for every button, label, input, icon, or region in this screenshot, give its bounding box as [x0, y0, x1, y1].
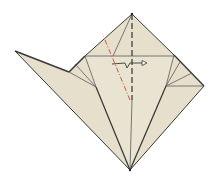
bottom-apex-point: [129, 169, 131, 171]
origami-diagram: [0, 0, 218, 177]
paper-shape: [15, 14, 204, 170]
top-apex-point: [131, 13, 133, 15]
